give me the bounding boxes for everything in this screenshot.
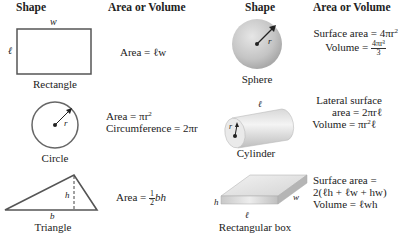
cylinder-lateral-line2: area = 2πrℓ: [300, 106, 382, 118]
box-length-label: ℓ: [245, 210, 249, 220]
sphere-volume-formula: Volume = 4πr³3: [296, 40, 398, 57]
cylinder-volume-formula: Volume = πr2ℓ: [300, 118, 376, 130]
sphere-name: Sphere: [231, 73, 283, 85]
box-name: Rectangular box: [210, 221, 300, 233]
cylinder-lateral-line1: Lateral surface: [300, 94, 382, 106]
circle-name: Circle: [30, 152, 80, 164]
box-volume-formula: Volume = ℓwh: [313, 198, 387, 210]
cylinder-radius-label: r: [229, 122, 232, 131]
circle-area-formula: Area = πr2: [106, 110, 198, 122]
sphere-radius-label: r: [268, 36, 272, 46]
box-height-label: h: [214, 197, 219, 207]
rectangle-length-label: ℓ: [8, 45, 12, 56]
circle-formulas: Area = πr2 Circumference = 2πr: [106, 110, 198, 134]
triangle-shape: [4, 172, 99, 212]
header-formula-left: Area or Volume: [108, 1, 186, 13]
rectangle-width-label: w: [50, 16, 57, 27]
header-formula-right: Area or Volume: [313, 1, 391, 13]
circle-shape: [30, 100, 80, 150]
box-width-label: w: [293, 192, 299, 202]
sphere-shape: [231, 18, 283, 70]
sphere-surface-formula: Surface area = 4πr2: [296, 27, 398, 39]
cylinder-name: Cylinder: [226, 147, 286, 159]
box-formulas: Surface area = 2(ℓh + ℓw + hw) Volume = …: [313, 174, 387, 210]
triangle-height-label: h: [65, 190, 70, 200]
rectangle-formula: Area = ℓw: [120, 46, 166, 58]
box-surface-line1: Surface area =: [313, 174, 387, 186]
cylinder-formulas: Lateral surface area = 2πrℓ Volume = πr2…: [300, 94, 382, 130]
header-shape-right: Shape: [245, 1, 275, 13]
triangle-name: Triangle: [28, 221, 78, 233]
cylinder-length-label: ℓ: [258, 99, 262, 109]
triangle-base-label: b: [50, 211, 55, 221]
circle-circumference-formula: Circumference = 2πr: [106, 122, 198, 134]
rectangle-shape: [16, 28, 96, 78]
box-surface-line2: 2(ℓh + ℓw + hw): [313, 186, 387, 198]
triangle-formula: Area = 12bh: [116, 190, 166, 207]
sphere-formulas: Surface area = 4πr2 Volume = 4πr³3: [296, 27, 398, 57]
rectangle-name: Rectangle: [16, 78, 94, 90]
box-shape: [220, 172, 312, 208]
circle-radius-label: r: [64, 118, 68, 128]
header-shape-left: Shape: [16, 1, 46, 13]
